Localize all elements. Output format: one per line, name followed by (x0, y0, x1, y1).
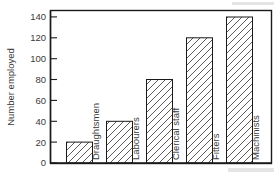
bar-clerical-staff (147, 80, 173, 164)
y-tick-label: 20 (35, 137, 46, 148)
bar-draughtsmen (67, 142, 93, 163)
category-label-draughtsmen: Draughtsmen (90, 103, 101, 160)
y-tick-label: 80 (35, 74, 46, 85)
y-tick-label: 0 (41, 157, 46, 168)
bar-machinists (227, 17, 253, 163)
bar-labourers (107, 121, 133, 163)
chart-canvas: 0 20 40 60 80 100 120 140 Number employe… (0, 0, 280, 175)
y-tick-label: 120 (30, 32, 46, 43)
bar-chart: 0 20 40 60 80 100 120 140 Number employe… (0, 0, 280, 175)
category-label-fitters: Fitters (210, 133, 221, 160)
y-tick-label: 100 (30, 53, 46, 64)
category-label-clerical-staff: Clerical staff (170, 108, 181, 160)
y-axis-title: Number employed (5, 48, 16, 126)
bar-fitters (187, 38, 213, 163)
y-tick-label: 40 (35, 116, 46, 127)
y-tick-label: 60 (35, 95, 46, 106)
category-label-labourers: Labourers (130, 117, 141, 160)
y-tick-label: 140 (30, 11, 46, 22)
category-label-machinists: Machinists (250, 115, 261, 160)
